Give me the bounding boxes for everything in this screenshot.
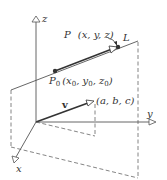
point-p0-label: P0(x0, y0, z0) xyxy=(48,75,113,88)
line-in-space-diagram: z y x L P (x, y, z) P0(x0, y0, z0) xyxy=(0,0,167,180)
x-axis-label: x xyxy=(16,163,22,174)
y-axis-arrow-icon xyxy=(149,119,156,125)
point-p: P (x, y, z) xyxy=(63,23,120,49)
plane-outline xyxy=(11,42,138,178)
z-axis: z xyxy=(32,13,48,122)
vector-v-label: v xyxy=(61,99,69,110)
vector-components-label: (a, b, c) xyxy=(96,95,135,106)
x-axis: x xyxy=(12,122,36,174)
z-axis-arrow-icon xyxy=(32,16,40,22)
vector-v-arrow-icon xyxy=(86,100,94,106)
z-axis-label: z xyxy=(41,13,48,24)
y-axis-label: y xyxy=(146,108,153,119)
point-p-label: P (x, y, z) xyxy=(63,23,114,42)
line-L-label: L xyxy=(122,32,130,43)
vector-v: v (a, b, c) xyxy=(36,95,135,122)
x-axis-arrow-icon xyxy=(12,156,19,163)
